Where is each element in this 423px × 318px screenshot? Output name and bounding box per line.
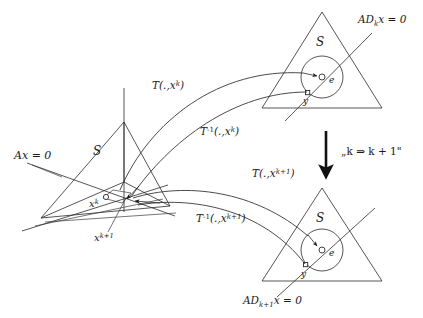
label-ad-k-x-zero: ADkx = 0: [357, 13, 407, 28]
arrow-to-e-top: [303, 73, 317, 76]
top-simplex-group: [262, 12, 382, 121]
label-T-inverse-k1: T-1(.,xk+1): [196, 212, 246, 225]
label-e-bottom: e: [329, 248, 334, 258]
point-marker-y-top: [306, 91, 310, 95]
ax-zero-leader: [32, 165, 62, 177]
label-e-top: e: [329, 75, 334, 85]
bottom-hyperplane-line: [277, 208, 375, 297]
point-marker-e-top: [319, 74, 325, 80]
bottom-triangle: [262, 188, 382, 281]
label-y-top: y: [302, 96, 309, 106]
label-ad-k1-x-zero: ADk+1x = 0: [242, 294, 302, 309]
label-iteration-note: „k ⇒ k + 1": [341, 145, 402, 157]
label-T-forward-k: T(.,xk): [152, 79, 184, 92]
label-T-forward-k1: T(.,xk+1): [252, 167, 295, 180]
label-ax-zero: Ax = 0: [13, 149, 51, 162]
label-s-bottom: S: [316, 211, 324, 225]
top-triangle: [262, 12, 382, 108]
label-s-left: S: [93, 144, 101, 158]
point-marker-x-k: [103, 194, 108, 199]
figure-svg: Ax = 0 S xk xk+1 S S e y e y ADkx = 0 AD…: [0, 0, 423, 318]
arrow-to-e-bottom: [308, 235, 317, 246]
label-T-inverse-k: T-1(.,xk): [200, 125, 239, 138]
point-marker-e-bottom: [319, 247, 325, 253]
cone-base-lower: [41, 206, 170, 218]
lower-transform-curves: [133, 190, 308, 264]
cone-edge-left: [41, 122, 124, 218]
bottom-simplex-group: [262, 188, 382, 297]
diagram-canvas: Ax = 0 S xk xk+1 S S e y e y ADkx = 0 AD…: [0, 0, 423, 318]
label-s-top: S: [316, 35, 324, 49]
label-y-bottom: y: [300, 269, 307, 279]
label-x-k-plus-1: xk+1: [94, 232, 114, 244]
